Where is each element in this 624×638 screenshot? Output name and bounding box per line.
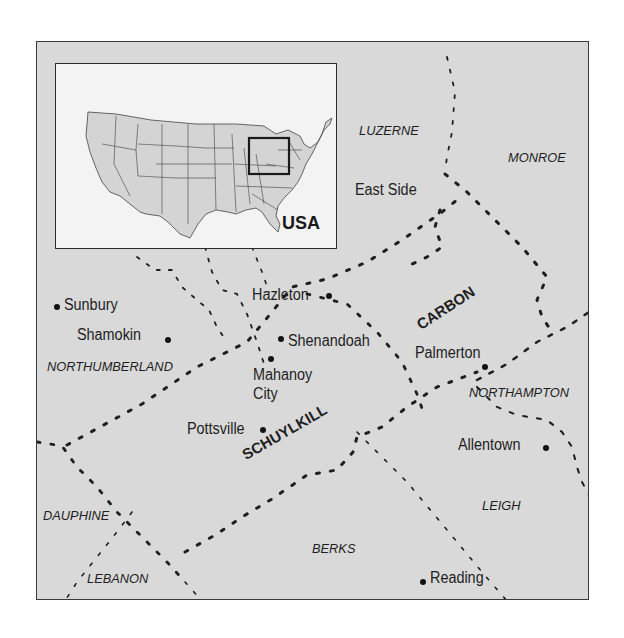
boundary-carbon-northampton bbox=[477, 312, 589, 380]
city-label-palmerton: Palmerton bbox=[415, 345, 481, 361]
boundary-luzerne-carbon bbox=[412, 210, 442, 264]
county-label-berks: BERKS bbox=[312, 542, 355, 556]
boundary-monroe-carbon bbox=[445, 174, 552, 332]
county-label-northumberland: NORTHUMBERLAND bbox=[47, 360, 173, 374]
city-label-hazleton: Hazleton bbox=[252, 287, 309, 303]
city-label-mahanoy-city: City bbox=[253, 386, 278, 402]
usa-inset-map: USA bbox=[55, 63, 337, 249]
county-label-leigh: LEIGH bbox=[482, 499, 520, 513]
city-marker-shamokin bbox=[165, 337, 171, 343]
city-marker-sunbury bbox=[54, 304, 60, 310]
city-marker-pottsville bbox=[260, 427, 266, 433]
city-label-allentown: Allentown bbox=[458, 437, 520, 453]
city-label-mahanoy: Mahanoy bbox=[253, 367, 312, 383]
boundary-lebanon-berks bbox=[185, 582, 202, 600]
city-marker-shenandoah bbox=[278, 336, 284, 342]
city-label-shamokin: Shamokin bbox=[77, 327, 141, 343]
city-marker-reading bbox=[420, 579, 426, 585]
boundary-schuylkill-south bbox=[185, 372, 477, 552]
city-label-sunbury: Sunbury bbox=[64, 297, 118, 313]
city-marker-allentown bbox=[543, 445, 549, 451]
boundary-northumberland-east bbox=[205, 247, 265, 367]
city-label-reading: Reading bbox=[430, 570, 484, 586]
city-marker-palmerton bbox=[482, 364, 488, 370]
city-label-shenandoah: Shenandoah bbox=[288, 333, 370, 349]
boundary-schuylkill-berks bbox=[185, 532, 247, 552]
inset-label-usa: USA bbox=[282, 213, 320, 234]
city-label-east-side: East Side bbox=[355, 182, 417, 198]
map-frame: USA LUZERNE MONROE NORTHUMBERLAND NORTHA… bbox=[36, 41, 589, 600]
boundary-luzerne-monroe bbox=[445, 57, 455, 172]
county-label-dauphine: DAUPHINE bbox=[43, 509, 109, 523]
county-label-northampton: NORTHAMPTON bbox=[469, 386, 569, 400]
city-marker-mahanoy-city bbox=[268, 356, 274, 362]
city-marker-hazleton bbox=[326, 293, 332, 299]
city-label-pottsville: Pottsville bbox=[187, 421, 245, 437]
boundary-northumberland-north bbox=[137, 257, 227, 342]
county-label-monroe: MONROE bbox=[508, 151, 566, 165]
boundary-luzerne-schuylkill bbox=[307, 294, 425, 417]
county-label-lebanon: LEBANON bbox=[87, 572, 148, 586]
boundary-dauphin-lebanon bbox=[65, 512, 132, 600]
county-label-luzerne: LUZERNE bbox=[359, 124, 419, 138]
